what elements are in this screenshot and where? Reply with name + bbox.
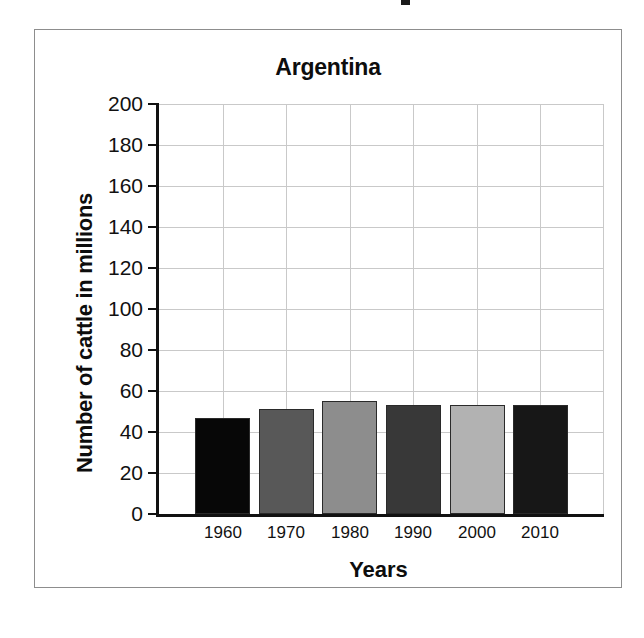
gridline-horizontal: [159, 309, 604, 310]
y-axis-tick-label: 160: [108, 174, 143, 198]
y-axis-tick-mark: [148, 390, 159, 392]
chart-title: Argentina: [35, 54, 621, 81]
gridline-horizontal: [159, 104, 604, 105]
bar-1970: [259, 409, 314, 514]
y-axis-tick-label: 120: [108, 256, 143, 280]
y-axis-tick-label: 60: [120, 379, 143, 403]
bar-1980: [322, 401, 377, 514]
x-axis-tick-label: 1960: [204, 523, 242, 543]
y-axis-tick-mark: [148, 472, 159, 474]
y-axis-tick-label: 80: [120, 338, 143, 362]
gridline-horizontal: [159, 350, 604, 351]
plot-area: 2001801601401201008060402001960197019801…: [156, 104, 604, 517]
bar-1990: [386, 405, 441, 514]
cropped-title-artifact: [401, 0, 410, 5]
x-axis-tick-label: 1980: [331, 523, 369, 543]
x-axis-tick-label: 1970: [267, 523, 305, 543]
y-axis-tick-mark: [148, 226, 159, 228]
y-axis-tick-label: 180: [108, 133, 143, 157]
gridline-horizontal: [159, 186, 604, 187]
y-axis-title: Number of cattle in millions: [72, 143, 98, 523]
bar-2000: [450, 405, 505, 514]
plot-right-border: [603, 104, 604, 514]
x-axis-title: Years: [156, 557, 601, 583]
bar-2010: [513, 405, 568, 514]
gridline-horizontal: [159, 268, 604, 269]
x-axis-tick-label: 2010: [521, 523, 559, 543]
y-axis-tick-label: 140: [108, 215, 143, 239]
gridline-horizontal: [159, 391, 604, 392]
y-axis-tick-mark: [148, 431, 159, 433]
y-axis-tick-mark: [148, 267, 159, 269]
y-axis-tick-mark: [148, 144, 159, 146]
x-axis-tick-label: 1990: [394, 523, 432, 543]
y-axis-tick-label: 40: [120, 420, 143, 444]
y-axis-tick-mark: [148, 308, 159, 310]
y-axis-tick-mark: [148, 185, 159, 187]
y-axis-tick-mark: [148, 103, 159, 105]
x-axis-tick-label: 2000: [458, 523, 496, 543]
y-axis-tick-label: 0: [131, 502, 143, 526]
y-axis-tick-mark: [148, 349, 159, 351]
y-axis-tick-label: 200: [108, 92, 143, 116]
gridline-horizontal: [159, 227, 604, 228]
y-axis-tick-label: 100: [108, 297, 143, 321]
chart-figure-frame: Argentina Number of cattle in millions 2…: [34, 29, 622, 588]
y-axis-tick-mark: [148, 513, 159, 515]
bar-1960: [195, 418, 250, 514]
gridline-horizontal: [159, 145, 604, 146]
y-axis-tick-label: 20: [120, 461, 143, 485]
